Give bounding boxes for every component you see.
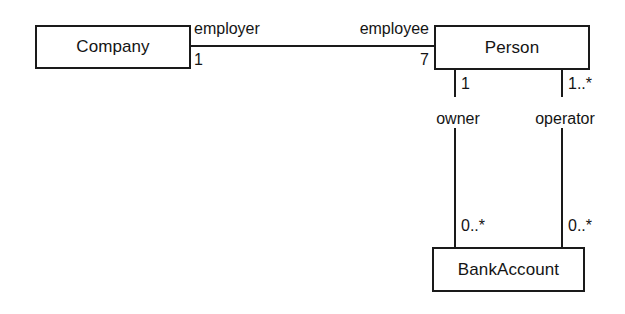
multiplicity-label-owner-account-end: 0..* — [461, 218, 485, 234]
multiplicity-label-owner-person-end: 1 — [461, 76, 470, 92]
multiplicity-label-operator-account-end: 0..* — [568, 218, 592, 234]
multiplicity-label-company-end: 1 — [194, 52, 203, 68]
role-label-owner: owner — [416, 110, 500, 128]
role-label-operator: operator — [517, 110, 613, 128]
multiplicity-label-operator-person-end: 1..* — [568, 76, 592, 92]
association-line-ownership-upper — [454, 69, 456, 97]
multiplicity-label-person-employment-end: 7 — [311, 52, 429, 68]
class-box-company[interactable]: Company — [35, 25, 191, 69]
association-line-employment — [189, 45, 436, 47]
role-label-employee: employee — [311, 21, 429, 37]
role-label-employer: employer — [194, 21, 260, 37]
class-name-company: Company — [76, 37, 149, 57]
class-box-person[interactable]: Person — [434, 25, 590, 70]
class-name-bankaccount: BankAccount — [458, 260, 559, 280]
association-line-ownership-lower — [454, 118, 456, 248]
class-box-bankaccount[interactable]: BankAccount — [432, 247, 585, 292]
uml-class-diagram-canvas: Company Person BankAccount employer 1 em… — [0, 0, 625, 314]
association-line-operation-upper — [561, 69, 563, 97]
class-name-person: Person — [485, 38, 539, 58]
association-line-operation-lower — [561, 118, 563, 248]
